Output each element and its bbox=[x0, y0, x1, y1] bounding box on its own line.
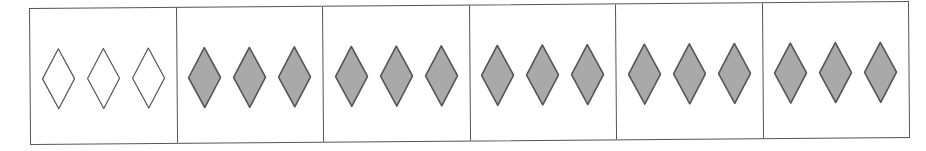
sequence-cell-6 bbox=[762, 2, 909, 138]
sequence-cell-4 bbox=[469, 4, 617, 140]
filled-diamond-icon bbox=[424, 44, 458, 106]
sequence-cell-1 bbox=[30, 8, 178, 144]
filled-diamond-icon bbox=[481, 44, 515, 106]
filled-diamond-icon bbox=[233, 46, 267, 108]
filled-diamond-icon bbox=[379, 44, 413, 106]
filled-diamond-icon bbox=[526, 43, 560, 105]
diamond-sequence-strip bbox=[29, 1, 910, 145]
filled-diamond-icon bbox=[717, 42, 751, 104]
filled-diamond-icon bbox=[819, 41, 853, 103]
filled-diamond-icon bbox=[278, 45, 312, 107]
filled-diamond-icon bbox=[864, 41, 898, 103]
filled-diamond-icon bbox=[627, 43, 661, 105]
filled-diamond-icon bbox=[188, 46, 222, 108]
empty-diamond-icon bbox=[86, 47, 120, 109]
sequence-cell-5 bbox=[616, 3, 764, 139]
sequence-cell-3 bbox=[323, 6, 471, 142]
filled-diamond-icon bbox=[672, 42, 706, 104]
sequence-cell-2 bbox=[177, 7, 325, 143]
empty-diamond-icon bbox=[41, 47, 75, 109]
empty-diamond-icon bbox=[131, 46, 165, 108]
filled-diamond-icon bbox=[571, 43, 605, 105]
filled-diamond-icon bbox=[334, 45, 368, 107]
filled-diamond-icon bbox=[774, 41, 808, 103]
